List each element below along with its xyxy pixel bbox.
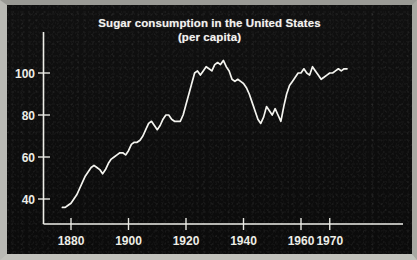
y-tick-label: 80 xyxy=(22,109,36,123)
line-chart-plot: 406080100 188019001920194019601970 xyxy=(7,5,417,260)
y-tick-label: 40 xyxy=(22,193,36,207)
x-tick-group: 188019001920194019601970 xyxy=(58,218,344,248)
y-tick-label: 60 xyxy=(22,151,36,165)
x-tick-label: 1940 xyxy=(230,234,257,248)
y-tick-label: 100 xyxy=(15,67,35,81)
y-tick-group: 406080100 xyxy=(15,67,50,207)
x-tick-label: 1960 xyxy=(288,234,315,248)
data-series-line xyxy=(62,60,347,207)
x-tick-label: 1880 xyxy=(58,234,85,248)
x-tick-label: 1970 xyxy=(316,234,343,248)
chart-figure: Sugar consumption in the United States (… xyxy=(0,0,417,260)
x-tick-label: 1900 xyxy=(115,234,142,248)
x-tick-label: 1920 xyxy=(173,234,200,248)
